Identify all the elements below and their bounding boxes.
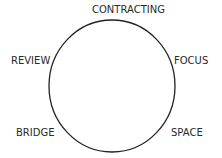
stage-label-review: REVIEW bbox=[11, 55, 50, 67]
stage-label-focus: FOCUS bbox=[174, 55, 208, 67]
stage-label-bridge: BRIDGE bbox=[16, 127, 55, 139]
stage-label-contracting: CONTRACTING bbox=[92, 4, 165, 16]
stage-label-space: SPACE bbox=[171, 127, 203, 139]
cycle-diagram: CONTRACTING FOCUS SPACE BRIDGE REVIEW bbox=[0, 0, 222, 158]
